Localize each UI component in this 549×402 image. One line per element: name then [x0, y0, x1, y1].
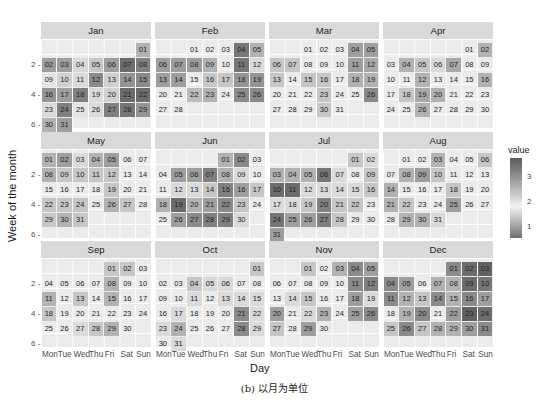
day-cell: 15	[187, 73, 202, 87]
day-cell: 12	[250, 58, 265, 72]
month-title: Aug	[383, 132, 493, 149]
day-cell: 20	[431, 88, 446, 102]
x-tick-label: Fri	[105, 350, 115, 359]
day-cell: 18	[384, 307, 399, 321]
day-cell: 03	[478, 262, 493, 276]
day-cell: 09	[120, 277, 135, 291]
day-cell: 28	[203, 213, 218, 227]
legend-tick-3: 3	[527, 172, 531, 181]
day-cell: 05	[203, 277, 218, 291]
day-cell: 10	[332, 277, 347, 291]
day-cell: 03	[270, 168, 285, 182]
y-tick-label: 6 -	[31, 339, 40, 348]
day-cell: 12	[364, 277, 379, 291]
month-title: Dec	[383, 241, 493, 258]
day-cell: 12	[57, 292, 72, 306]
day-cell: 11	[42, 292, 57, 306]
day-cell: 11	[89, 168, 104, 182]
day-cell: 13	[104, 73, 119, 87]
day-cell: 22	[104, 307, 119, 321]
day-cell: 05	[57, 277, 72, 291]
day-cell: 09	[364, 168, 379, 182]
day-cell: 24	[270, 213, 285, 227]
day-cell: 01	[462, 43, 477, 57]
day-cell: 31	[478, 322, 493, 336]
day-cell: 11	[348, 277, 363, 291]
day-cell: 23	[42, 103, 57, 117]
day-cell: 13	[317, 183, 332, 197]
day-cell: 20	[415, 307, 430, 321]
day-cell: 06	[270, 277, 285, 291]
day-cell: 06	[104, 58, 119, 72]
day-cell: 17	[478, 292, 493, 306]
day-cell: 14	[136, 168, 151, 182]
day-cell: 07	[332, 168, 347, 182]
day-cell: 08	[250, 277, 265, 291]
day-cell: 28	[171, 103, 186, 117]
day-cell: 07	[203, 168, 218, 182]
x-tick-label: Tue	[400, 350, 414, 359]
day-cell: 09	[462, 277, 477, 291]
day-cell: 22	[136, 88, 151, 102]
day-cell: 18	[348, 73, 363, 87]
day-cell: 23	[57, 198, 72, 212]
day-cell: 08	[301, 277, 316, 291]
day-cell: 16	[156, 307, 171, 321]
y-tick-label: 2 -	[31, 60, 40, 69]
day-cell: 28	[136, 198, 151, 212]
day-cell: 16	[317, 292, 332, 306]
month-title: Sep	[41, 241, 151, 258]
day-cell: 18	[156, 198, 171, 212]
day-cell: 18	[285, 198, 300, 212]
day-cell: 26	[171, 213, 186, 227]
day-cell: 16	[42, 88, 57, 102]
x-tick-label: Mon	[42, 350, 58, 359]
day-cell: 19	[301, 198, 316, 212]
day-cell: 11	[285, 183, 300, 197]
day-cell: 22	[348, 198, 363, 212]
day-cell: 30	[462, 322, 477, 336]
day-cell: 14	[285, 292, 300, 306]
day-cell: 15	[218, 183, 233, 197]
day-cell: 01	[218, 153, 233, 167]
month-panel-nov: Nov0102030405060708091011121314151617181…	[269, 241, 379, 347]
x-tick-label: Sun	[136, 350, 151, 359]
figure-caption: (b) 以月为单位	[0, 380, 549, 395]
day-cell: 22	[462, 88, 477, 102]
day-cell: 23	[317, 88, 332, 102]
day-cell: 17	[250, 183, 265, 197]
day-cell: 27	[104, 103, 119, 117]
day-cell: 20	[218, 307, 233, 321]
month-panel-feb: Feb0102030405060708091011121314151617181…	[155, 22, 265, 128]
day-cell: 26	[57, 322, 72, 336]
day-cell: 16	[234, 183, 249, 197]
day-cell: 22	[301, 307, 316, 321]
day-cell: 07	[384, 168, 399, 182]
day-cell: 23	[203, 88, 218, 102]
day-cell: 12	[171, 183, 186, 197]
day-cell: 11	[399, 73, 414, 87]
day-cell: 29	[399, 213, 414, 227]
day-cell: 24	[218, 88, 233, 102]
day-cell: 20	[317, 198, 332, 212]
day-cell: 15	[446, 292, 461, 306]
day-cell: 27	[270, 103, 285, 117]
day-cell: 09	[156, 292, 171, 306]
day-cell: 03	[332, 262, 347, 276]
day-cell: 09	[42, 73, 57, 87]
day-cell: 03	[332, 43, 347, 57]
day-cell: 03	[171, 277, 186, 291]
day-cell: 12	[364, 58, 379, 72]
day-cell: 10	[218, 58, 233, 72]
day-cell: 27	[156, 103, 171, 117]
day-cell: 30	[364, 213, 379, 227]
day-cell: 02	[415, 153, 430, 167]
day-cell: 08	[187, 58, 202, 72]
day-cell: 07	[431, 277, 446, 291]
day-cell: 16	[120, 292, 135, 306]
month-panel-jul: Jul0102030405060708091011121314151617181…	[269, 132, 379, 238]
day-cell: 23	[234, 198, 249, 212]
day-cell: 08	[348, 168, 363, 182]
day-cell: 27	[431, 103, 446, 117]
day-cell: 25	[384, 322, 399, 336]
